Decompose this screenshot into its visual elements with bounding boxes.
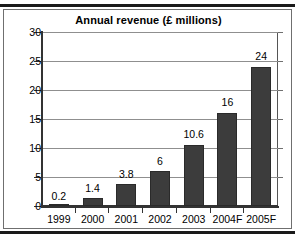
y-tick-label-5: 5: [13, 172, 41, 182]
bar-value-2004F: 16: [222, 97, 234, 108]
bar-2003[interactable]: [184, 145, 204, 206]
x-label-2000: 2000: [76, 213, 110, 225]
chart-figure: Annual revenue (£ millions) 30 25 20 15 …: [3, 9, 292, 229]
bar-2000[interactable]: [83, 198, 103, 206]
bar-slot-2004F: 16: [211, 32, 245, 206]
page-rule-bottom: [0, 231, 295, 234]
bar-2004F[interactable]: [217, 113, 237, 206]
right-tick-20: [278, 90, 283, 91]
bar-value-2005F: 24: [255, 51, 267, 62]
page-rule-top: [0, 4, 295, 7]
bar-value-2003: 10.6: [184, 129, 204, 140]
x-label-2005F: 2005F: [244, 213, 278, 225]
y-tick-label-10: 10: [13, 143, 41, 153]
y-tick-label-30: 30: [13, 27, 41, 37]
y-axis-ticks: 30 25 20 15 10 5 0: [4, 10, 41, 206]
chart-title: Annual revenue (£ millions): [4, 14, 293, 26]
right-tick-30: [278, 32, 283, 33]
y-tick-label-0: 0: [13, 201, 41, 211]
bar-value-2001: 3.8: [119, 169, 134, 180]
bar-2002[interactable]: [150, 171, 170, 206]
bar-series: 0.2 1.4 3.8 6 10.6 16 24: [42, 32, 278, 206]
bar-value-2000: 1.4: [85, 183, 100, 194]
bar-value-1999: 0.2: [52, 191, 67, 202]
y-tick-label-25: 25: [13, 56, 41, 66]
x-label-2003: 2003: [177, 213, 211, 225]
bar-slot-1999: 0.2: [42, 32, 76, 206]
bar-2005F[interactable]: [251, 67, 271, 206]
x-label-2001: 2001: [109, 213, 143, 225]
right-tick-25: [278, 61, 283, 62]
bar-slot-2005F: 24: [244, 32, 278, 206]
y-tick-label-20: 20: [13, 85, 41, 95]
x-label-2004F: 2004F: [211, 213, 245, 225]
y-tick-label-15: 15: [13, 114, 41, 124]
bar-slot-2003: 10.6: [177, 32, 211, 206]
x-label-1999: 1999: [42, 213, 76, 225]
x-label-2002: 2002: [143, 213, 177, 225]
x-axis-labels: 1999 2000 2001 2002 2003 2004F 2005F: [42, 213, 278, 225]
bar-slot-2000: 1.4: [76, 32, 110, 206]
right-tick-5: [278, 177, 283, 178]
bar-value-2002: 6: [157, 156, 163, 167]
right-tick-15: [278, 119, 283, 120]
right-tick-10: [278, 148, 283, 149]
bar-2001[interactable]: [116, 184, 136, 206]
bar-slot-2001: 3.8: [109, 32, 143, 206]
bar-slot-2002: 6: [143, 32, 177, 206]
